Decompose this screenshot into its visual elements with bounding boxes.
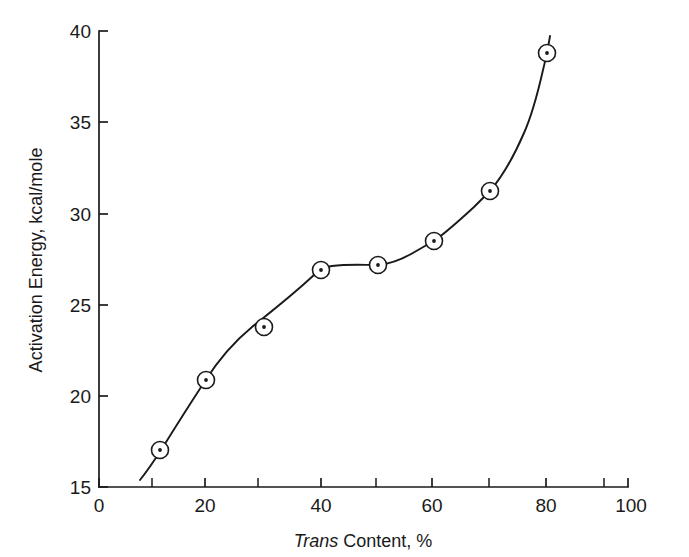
series-markers-group bbox=[152, 45, 556, 459]
y-tick-label-30: 30 bbox=[70, 204, 91, 225]
series-line-activation-energy bbox=[140, 36, 550, 480]
x-tick-label-80: 80 bbox=[535, 495, 556, 516]
x-tick-label-20: 20 bbox=[194, 495, 215, 516]
data-point-marker bbox=[370, 257, 387, 274]
data-point-marker bbox=[313, 262, 330, 279]
x-tick-label-60: 60 bbox=[421, 495, 442, 516]
data-point-marker bbox=[256, 319, 273, 336]
x-tick-label-0: 0 bbox=[94, 495, 105, 516]
chart-figure: 40 35 30 25 20 15 0 20 40 60 80 bbox=[0, 0, 689, 557]
x-axis-title-italic-part: Trans bbox=[294, 531, 339, 551]
y-tick-label-35: 35 bbox=[70, 112, 91, 133]
x-axis-ticks bbox=[99, 478, 628, 487]
y-axis-tick-labels: 40 35 30 25 20 15 bbox=[70, 21, 91, 498]
chart-plot-area: 40 35 30 25 20 15 0 20 40 60 80 bbox=[0, 0, 689, 557]
y-tick-label-20: 20 bbox=[70, 386, 91, 407]
y-tick-label-15: 15 bbox=[70, 477, 91, 498]
data-point-marker bbox=[426, 233, 443, 250]
y-axis-ticks bbox=[99, 31, 108, 487]
x-axis-title-rest: Content, % bbox=[338, 531, 432, 551]
x-tick-label-100: 100 bbox=[615, 495, 647, 516]
svg-text:Trans Content, %: Trans Content, % bbox=[294, 531, 433, 551]
y-tick-label-40: 40 bbox=[70, 21, 91, 42]
axes-group bbox=[99, 31, 628, 487]
x-axis-tick-labels: 0 20 40 60 80 100 bbox=[94, 495, 647, 516]
x-axis-title: Trans Content, % bbox=[294, 531, 433, 551]
data-point-marker bbox=[152, 442, 169, 459]
data-point-marker bbox=[539, 45, 556, 62]
data-point-marker bbox=[482, 183, 499, 200]
y-axis-title: Activation Energy, kcal/mole bbox=[26, 148, 46, 373]
x-tick-label-40: 40 bbox=[310, 495, 331, 516]
y-tick-label-25: 25 bbox=[70, 295, 91, 316]
data-point-marker bbox=[198, 372, 215, 389]
